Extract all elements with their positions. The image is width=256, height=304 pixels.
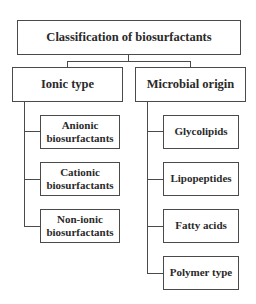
node-glycolipids: Glycolipids bbox=[163, 115, 239, 149]
connector-anionic bbox=[24, 131, 40, 132]
node-label: Polymer type bbox=[170, 266, 232, 279]
category-microbial-origin: Microbial origin bbox=[135, 67, 246, 102]
node-lipopeptides: Lipopeptides bbox=[163, 162, 239, 196]
connector-polymer-type bbox=[147, 273, 163, 274]
category-label: Microbial origin bbox=[147, 77, 235, 92]
connector-root-stem bbox=[128, 54, 129, 61]
root-label: Classification of biosurfactants bbox=[46, 30, 211, 45]
node-label: Lipopeptides bbox=[170, 172, 231, 185]
node-label: Non-ionic biosurfactants bbox=[46, 213, 113, 239]
root-node: Classification of biosurfactants bbox=[17, 20, 241, 55]
connector-microbial-trunk bbox=[147, 101, 148, 274]
connector-lipopeptides bbox=[147, 179, 163, 180]
connector-cationic bbox=[24, 179, 40, 180]
node-anionic-biosurfactants: Anionic biosurfactants bbox=[40, 115, 120, 149]
node-label: Fatty acids bbox=[175, 219, 227, 232]
node-cationic-biosurfactants: Cationic biosurfactants bbox=[40, 162, 120, 196]
category-label: Ionic type bbox=[41, 77, 94, 92]
connector-fatty-acids bbox=[147, 226, 163, 227]
connector-ionic-trunk bbox=[24, 101, 25, 227]
connector-nonionic bbox=[24, 226, 40, 227]
connector-glycolipids bbox=[147, 131, 163, 132]
node-label: Glycolipids bbox=[174, 125, 227, 138]
node-label: Anionic biosurfactants bbox=[46, 119, 113, 145]
connector-root-bar bbox=[67, 61, 191, 62]
node-polymer-type: Polymer type bbox=[163, 256, 239, 290]
node-nonionic-biosurfactants: Non-ionic biosurfactants bbox=[40, 209, 120, 243]
node-label: Cationic biosurfactants bbox=[46, 166, 113, 192]
node-fatty-acids: Fatty acids bbox=[163, 209, 239, 243]
category-ionic-type: Ionic type bbox=[12, 67, 123, 102]
